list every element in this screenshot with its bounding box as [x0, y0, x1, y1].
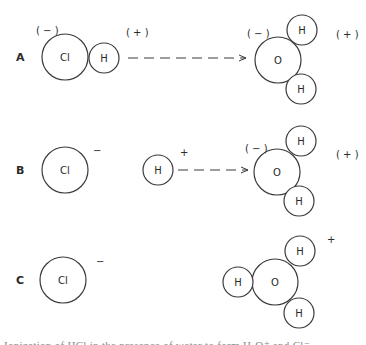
atom-symbol: Cl — [60, 52, 70, 63]
atom-h: H — [286, 74, 316, 104]
hcl-ionization-diagram: AClH( − )( + )OHH( − )( + )BCl−H+OHH( − … — [0, 0, 366, 345]
left-molecule: ClH( − )( + ) — [36, 25, 149, 80]
atom-cl: Cl — [40, 257, 86, 303]
charge-label: ( + ) — [336, 29, 359, 40]
charge-label: ( − ) — [36, 25, 59, 36]
charge-label: − — [93, 145, 101, 156]
atom-symbol: H — [295, 308, 303, 319]
water-molecule: OHHH+ — [223, 234, 335, 328]
charge-label: ( + ) — [336, 149, 359, 160]
left-molecule: Cl− — [40, 256, 104, 303]
atom-symbol: H — [295, 196, 303, 207]
row-label: C — [16, 274, 24, 287]
atom-h: H — [285, 236, 315, 266]
atom-symbol: H — [100, 53, 108, 64]
atom-h: H — [287, 15, 317, 45]
left-molecule: Cl− — [42, 145, 101, 193]
row-b: BCl−H+OHH( − )( + ) — [16, 126, 359, 216]
row-a: AClH( − )( + )OHH( − )( + ) — [16, 15, 359, 104]
figure-caption: Ionization of HCl in the presence of wat… — [4, 338, 364, 345]
atom-h: H — [89, 43, 119, 73]
charge-label: + — [327, 234, 335, 245]
atom-cl: Cl — [42, 147, 88, 193]
atom-h: H — [286, 126, 316, 156]
atom-symbol: O — [274, 55, 282, 66]
atom-h: H — [284, 186, 314, 216]
charge-label: + — [180, 147, 188, 158]
atom-o: O — [252, 259, 298, 305]
atom-symbol: H — [154, 165, 162, 176]
row-label: A — [16, 51, 25, 64]
atom-cl: Cl — [42, 34, 88, 80]
atom-symbol: Cl — [60, 165, 70, 176]
charge-label: − — [96, 256, 104, 267]
atom-h: H — [143, 155, 173, 185]
charge-label: ( − ) — [247, 28, 270, 39]
row-label: B — [16, 164, 24, 177]
water-molecule: OHH( − )( + ) — [245, 126, 359, 216]
atom-symbol: O — [273, 167, 281, 178]
atom-symbol: Cl — [58, 275, 68, 286]
atom-symbol: H — [296, 246, 304, 257]
atom-symbol: H — [234, 277, 242, 288]
hydrogen-ion: H+ — [143, 147, 188, 185]
atom-symbol: O — [271, 277, 279, 288]
atom-symbol: H — [297, 136, 305, 147]
atom-h: H — [223, 267, 253, 297]
row-c: CCl−OHHH+ — [16, 234, 335, 328]
atom-symbol: H — [298, 25, 306, 36]
atom-symbol: H — [297, 84, 305, 95]
charge-label: ( + ) — [126, 27, 149, 38]
water-molecule: OHH( − )( + ) — [247, 15, 359, 104]
atom-h: H — [284, 298, 314, 328]
charge-label: ( − ) — [245, 143, 268, 154]
